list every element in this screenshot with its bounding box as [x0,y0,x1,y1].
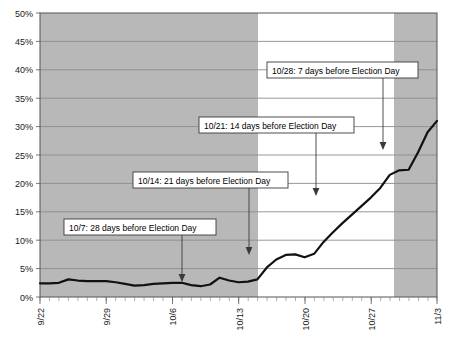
y-tick-label-25: 25% [15,151,33,161]
y-tick-label-45: 45% [15,37,33,47]
annotation-10-14-label: 10/14: 21 days before Election Day [138,176,271,186]
chart-canvas: 50% 45% 40% 35% 30% 25% 20% 15% 10% 5% 0… [0,0,454,343]
line-chart: 50% 45% 40% 35% 30% 25% 20% 15% 10% 5% 0… [0,0,454,343]
annotation-10-28-label: 10/28: 7 days before Election Day [272,66,400,76]
y-tick-label-30: 30% [15,122,33,132]
y-axis-labels: 50% 45% 40% 35% 30% 25% 20% 15% 10% 5% 0… [15,9,33,303]
x-tick-label-0: 9/22 [36,308,46,326]
x-tick-label-4: 10/20 [301,308,311,331]
y-axis-ticks [36,13,40,297]
x-tick-label-5: 10/27 [367,308,377,331]
y-tick-label-5: 5% [20,264,33,274]
y-tick-label-50: 50% [15,9,33,19]
x-tick-label-1: 9/29 [102,308,112,326]
x-tick-label-3: 10/13 [235,308,245,331]
annotation-10-7-label: 10/7: 28 days before Election Day [69,223,197,233]
y-tick-label-35: 35% [15,94,33,104]
annotation-10-21-label: 10/21: 14 days before Election Day [204,121,337,131]
y-tick-label-15: 15% [15,207,33,217]
y-tick-label-20: 20% [15,179,33,189]
y-tick-label-40: 40% [15,65,33,75]
y-tick-label-10: 10% [15,236,33,246]
x-tick-label-2: 10/6 [168,308,178,326]
y-tick-label-0: 0% [20,293,33,303]
x-tick-label-6: 11/3 [433,308,443,325]
x-axis-major-ticks [40,297,437,304]
x-axis-labels: 9/22 9/29 10/6 10/13 10/20 10/27 11/3 [36,308,443,331]
